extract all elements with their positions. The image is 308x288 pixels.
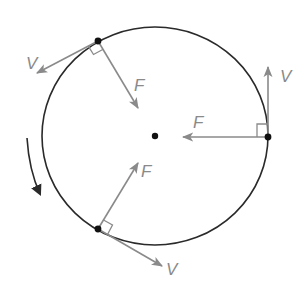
rotation-direction-arrow: [27, 138, 40, 194]
point-top-left-group: V F: [26, 38, 146, 108]
force-vector-top-left: [98, 41, 138, 108]
point-bottom-left: [95, 226, 102, 233]
point-right-group: V F: [183, 67, 293, 140]
center-point: [152, 133, 158, 139]
force-label-bottom-left: F: [141, 162, 153, 181]
circular-motion-diagram: V F V F F V: [0, 0, 308, 288]
velocity-label-bottom-left: V: [166, 260, 179, 279]
point-bottom-left-group: F V: [95, 162, 179, 279]
force-label-top-left: F: [134, 76, 146, 95]
velocity-label-top-left: V: [26, 54, 39, 73]
point-right: [265, 134, 272, 141]
force-vector-bottom-left: [98, 163, 138, 229]
force-label-right: F: [193, 113, 205, 132]
velocity-label-right: V: [280, 67, 293, 86]
diagram-svg: V F V F F V: [0, 0, 308, 288]
point-top-left: [95, 38, 102, 45]
